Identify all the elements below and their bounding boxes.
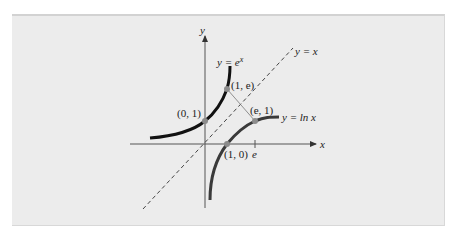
identity-line xyxy=(143,48,293,209)
point-label-0-1: (0, 1) xyxy=(177,107,201,120)
point-label-e-1: (e, 1) xyxy=(250,104,274,117)
exp-curve xyxy=(150,66,230,138)
graph-exp-ln: y x y = ex y = x y = ln x (0, 1) (1, e) … xyxy=(0,0,459,236)
y-axis-label: y xyxy=(199,24,205,36)
identity-line-label: y = x xyxy=(294,45,318,57)
x-axis-label: x xyxy=(319,138,325,150)
point-label-1-0: (1, 0) xyxy=(224,148,248,161)
point-0-1 xyxy=(202,118,208,124)
point-1-0 xyxy=(224,141,230,147)
point-e-1 xyxy=(252,118,258,124)
point-1-e xyxy=(224,86,230,92)
tick-label-e: e xyxy=(252,148,257,160)
exp-curve-label: y = ex xyxy=(216,55,244,68)
point-label-1-e: (1, e) xyxy=(231,79,255,92)
ln-curve-label: y = ln x xyxy=(281,111,316,123)
